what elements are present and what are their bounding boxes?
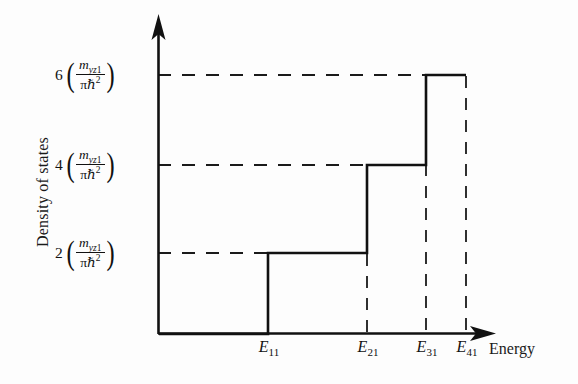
y-tick-coefficient-2: 2 (55, 244, 63, 262)
hbar-symbol-6: ℏ (87, 77, 96, 92)
y-tick-coefficient-4: 4 (55, 156, 63, 174)
pi-symbol-4: π (80, 167, 87, 182)
pi-symbol-2: π (80, 255, 87, 270)
fraction-numerator-4: myz1 (76, 148, 104, 166)
pi-symbol-6: π (80, 77, 87, 92)
mass-subscript-2: yz (89, 242, 97, 252)
x-tick-symbol-E31: E (417, 338, 427, 355)
fraction-2: myz1 πℏ2 (76, 236, 104, 271)
mass-subscript2-4: 1 (97, 154, 102, 164)
x-tick-symbol-E41: E (457, 338, 467, 355)
paren-left-2: ( (66, 236, 74, 270)
mass-symbol-6: m (79, 57, 89, 72)
fraction-denominator-2: πℏ2 (76, 253, 104, 270)
hbar-exponent-4: 2 (96, 165, 101, 175)
mass-subscript2-2: 1 (97, 242, 102, 252)
x-tick-symbol-E21: E (358, 338, 368, 355)
x-tick-subscript-E21: 21 (367, 346, 378, 358)
hbar-exponent-2: 2 (96, 253, 101, 263)
x-tick-label-E41: E41 (457, 338, 478, 358)
paren-left-4: ( (66, 148, 74, 182)
fraction-denominator-6: πℏ2 (76, 75, 104, 92)
x-tick-symbol-E11: E (259, 338, 269, 355)
fraction-numerator-2: myz1 (76, 236, 104, 254)
fraction-4: myz1 πℏ2 (76, 148, 104, 183)
fraction-numerator-6: myz1 (76, 58, 104, 76)
paren-right-6: ) (106, 58, 114, 92)
mass-subscript2-6: 1 (97, 64, 102, 74)
x-tick-label-E11: E11 (259, 338, 279, 358)
mass-subscript-4: yz (89, 154, 97, 164)
x-tick-subscript-E41: 41 (466, 346, 477, 358)
mass-symbol-2: m (79, 235, 89, 250)
paren-left-6: ( (66, 58, 74, 92)
mass-subscript-6: yz (89, 64, 97, 74)
x-tick-subscript-E31: 31 (426, 346, 437, 358)
fraction-6: myz1 πℏ2 (76, 58, 104, 93)
x-tick-subscript-E11: 11 (269, 346, 280, 358)
hbar-symbol-4: ℏ (87, 167, 96, 182)
hbar-symbol-2: ℏ (87, 255, 96, 270)
density-of-states-figure: Density of states 6 ( myz1 πℏ2 ) 4 ( myz… (0, 0, 578, 384)
paren-right-2: ) (106, 236, 114, 270)
paren-right-4: ) (106, 148, 114, 182)
hbar-exponent-6: 2 (96, 75, 101, 85)
mass-symbol-4: m (79, 147, 89, 162)
y-tick-coefficient-6: 6 (55, 66, 63, 84)
fraction-denominator-4: πℏ2 (76, 165, 104, 182)
dos-staircase-curve (159, 75, 466, 334)
x-tick-label-E21: E21 (358, 338, 379, 358)
y-axis-title: Density of states (34, 82, 52, 302)
x-axis-title: Energy (489, 340, 535, 358)
x-tick-label-E31: E31 (417, 338, 438, 358)
